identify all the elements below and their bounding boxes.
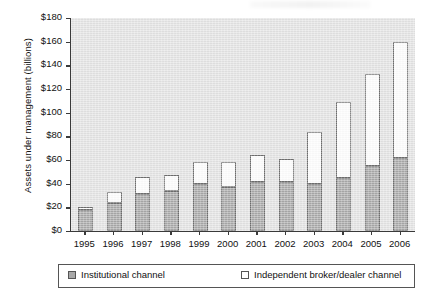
y-tick-mark	[66, 65, 70, 66]
y-tick-label: $20	[46, 200, 62, 211]
bar-segment-institutional-1996	[107, 203, 122, 231]
x-tick-mark	[371, 231, 372, 235]
bar-segment-independent-2006	[393, 42, 408, 158]
legend-item-institutional: Institutional channel	[68, 269, 165, 280]
bar-segment-independent-2004	[336, 102, 351, 178]
bar-segment-institutional-2004	[336, 178, 351, 231]
y-tick-label: $120	[41, 82, 62, 93]
bar-segment-institutional-2006	[393, 158, 408, 231]
x-tick-mark	[256, 231, 257, 235]
bar-segment-institutional-2001	[250, 182, 265, 231]
bar-chart: Assets under management (billions) $0$20…	[0, 0, 427, 299]
bar-1998	[164, 175, 179, 231]
bar-2004	[336, 102, 351, 231]
x-tick-mark	[170, 231, 171, 235]
x-tick-mark	[285, 231, 286, 235]
y-tick-mark	[66, 89, 70, 90]
bar-segment-independent-1995	[78, 207, 93, 209]
bar-segment-institutional-1998	[164, 191, 179, 231]
bar-2002	[279, 159, 294, 231]
y-tick-label: $40	[46, 177, 62, 188]
bar-segment-independent-1998	[164, 175, 179, 190]
bar-segment-institutional-1999	[193, 184, 208, 231]
y-tick-label: $80	[46, 129, 62, 140]
y-tick-label: $160	[41, 35, 62, 46]
y-tick-mark	[66, 184, 70, 185]
x-tick-label: 2006	[380, 238, 420, 249]
bar-2006	[393, 42, 408, 231]
bar-segment-independent-2005	[365, 74, 380, 166]
bar-segment-institutional-2003	[307, 184, 322, 231]
x-tick-mark	[314, 231, 315, 235]
x-tick-mark	[400, 231, 401, 235]
bar-segment-independent-1999	[193, 162, 208, 183]
y-tick-mark	[66, 42, 70, 43]
x-tick-mark	[228, 231, 229, 235]
y-tick-label: $100	[41, 106, 62, 117]
bar-segment-independent-2001	[250, 155, 265, 182]
bar-2000	[221, 162, 236, 231]
y-tick-label: $60	[46, 153, 62, 164]
bar-segment-institutional-2005	[365, 166, 380, 231]
bar-segment-institutional-1995	[78, 210, 93, 231]
x-tick-mark	[84, 231, 85, 235]
y-tick-mark	[66, 113, 70, 114]
bar-segment-independent-2000	[221, 162, 236, 187]
bar-segment-institutional-1997	[135, 194, 150, 231]
y-axis-title: Assets under management (billions)	[22, 1, 33, 231]
legend-item-independent: Independent broker/dealer channel	[241, 269, 401, 280]
plot-area	[70, 18, 415, 232]
x-tick-mark	[342, 231, 343, 235]
x-tick-mark	[113, 231, 114, 235]
legend-label-independent: Independent broker/dealer channel	[254, 269, 401, 280]
bar-segment-institutional-2002	[279, 182, 294, 231]
legend-swatch-institutional-icon	[68, 271, 76, 279]
bar-segment-independent-2003	[307, 132, 322, 184]
y-tick-mark	[66, 136, 70, 137]
x-tick-mark	[199, 231, 200, 235]
scan-artifact	[250, 1, 370, 8]
y-tick-mark	[66, 160, 70, 161]
bar-segment-independent-1996	[107, 192, 122, 203]
bar-1997	[135, 177, 150, 231]
bar-2005	[365, 74, 380, 231]
y-tick-mark	[66, 207, 70, 208]
legend-label-institutional: Institutional channel	[81, 269, 165, 280]
y-tick-label: $0	[51, 224, 62, 235]
bar-2003	[307, 132, 322, 231]
legend-swatch-independent-icon	[241, 271, 249, 279]
chart-legend: Institutional channel Independent broker…	[58, 264, 415, 288]
y-tick-mark	[66, 18, 70, 19]
y-tick-label: $140	[41, 58, 62, 69]
x-tick-mark	[142, 231, 143, 235]
bar-segment-independent-1997	[135, 177, 150, 195]
bar-segment-independent-2002	[279, 159, 294, 183]
bar-segment-institutional-2000	[221, 187, 236, 231]
y-tick-mark	[66, 231, 70, 232]
y-tick-label: $180	[41, 11, 62, 22]
bar-1996	[107, 192, 122, 231]
bar-2001	[250, 155, 265, 231]
bar-1995	[78, 207, 93, 231]
bar-1999	[193, 162, 208, 231]
